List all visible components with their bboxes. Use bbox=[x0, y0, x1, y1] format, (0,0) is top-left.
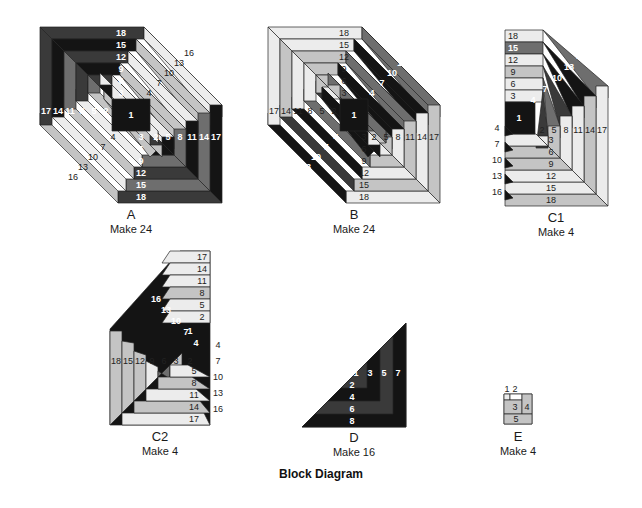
block-c1-diagram: 1818171515141212119986653321471013164710… bbox=[492, 30, 608, 206]
make-count-a: Make 24 bbox=[96, 222, 166, 236]
bottom-strip-label: 14 bbox=[189, 402, 199, 412]
horizontal-strip-label: 4 bbox=[349, 392, 354, 402]
top-strip-label: 6 bbox=[118, 76, 123, 86]
left-strip-label: 8 bbox=[307, 106, 312, 116]
bottom-strip-label: 9 bbox=[548, 159, 553, 169]
lower-diagonal-label: 13 bbox=[301, 162, 311, 172]
center-label: 1 bbox=[516, 113, 521, 123]
left-strip-label: 2 bbox=[331, 106, 336, 116]
upper-diagonal-label: 16 bbox=[184, 48, 194, 58]
right-strip-label: 8 bbox=[177, 132, 182, 142]
left-strip-label: 6 bbox=[161, 356, 166, 366]
right-top-strip-label: 8 bbox=[199, 288, 204, 298]
center-label: 1 bbox=[351, 110, 356, 120]
top-strip-label: 12 bbox=[339, 52, 349, 62]
top-strip-label: 15 bbox=[508, 43, 518, 53]
right-top-strip-label: 17 bbox=[197, 252, 207, 262]
top-strip-label: 3 bbox=[118, 88, 123, 98]
upper-diagonal-label: 13 bbox=[564, 62, 574, 72]
right-strip-label: 5 bbox=[383, 132, 388, 142]
right-strip-label: 2 bbox=[371, 132, 376, 142]
piece-label: 3 bbox=[512, 402, 517, 412]
center-label: 1 bbox=[128, 110, 133, 120]
left-strip-label: 3 bbox=[173, 356, 178, 366]
upper-diagonal-label: 4 bbox=[530, 95, 535, 105]
make-count-b: Make 24 bbox=[319, 222, 389, 236]
left-outside-label: 13 bbox=[492, 171, 502, 181]
bottom-strip-label: 5 bbox=[191, 366, 196, 376]
horizontal-strip-label: 8 bbox=[349, 416, 354, 426]
piece-1 bbox=[504, 394, 510, 400]
block-c2-diagram: 1714118521613107418151296317141185214710… bbox=[110, 251, 223, 425]
top-strip-label: 9 bbox=[341, 64, 346, 74]
right-strip-label: 2 bbox=[539, 125, 544, 135]
bottom-strip-label: 18 bbox=[546, 195, 556, 205]
lower-diagonal-label: 10 bbox=[311, 152, 321, 162]
left-strip bbox=[110, 331, 122, 425]
right-strip-label: 2 bbox=[153, 132, 158, 142]
right-strip bbox=[416, 113, 428, 191]
make-count-e: Make 4 bbox=[483, 444, 553, 458]
left-strip-label: 17 bbox=[269, 106, 279, 116]
top-strip bbox=[280, 39, 366, 51]
right-strip-label: 8 bbox=[563, 125, 568, 135]
right-strip-label: 8 bbox=[395, 132, 400, 142]
piece-label: 5 bbox=[513, 414, 518, 424]
upper-diagonal-label: 4 bbox=[146, 88, 151, 98]
top-strip-label: 9 bbox=[118, 64, 123, 74]
upper-diagonal-label: 16 bbox=[407, 48, 417, 58]
right-strip-label: 5 bbox=[165, 132, 170, 142]
vertical-strip-label: 7 bbox=[395, 368, 400, 378]
caption-e: E Make 4 bbox=[483, 429, 553, 458]
block-letter-d: D bbox=[319, 430, 389, 445]
right-strip-label: 11 bbox=[405, 132, 414, 142]
bottom-strip bbox=[505, 158, 572, 170]
make-count-c2: Make 4 bbox=[125, 444, 195, 458]
bottom-strip-label: 12 bbox=[136, 168, 146, 178]
make-count-c1: Make 4 bbox=[521, 225, 591, 239]
block-letter-e: E bbox=[483, 429, 553, 444]
upper-diagonal-label: 10 bbox=[164, 68, 174, 78]
block-letter-c2: C2 bbox=[125, 429, 195, 444]
bottom-strip-label: 8 bbox=[191, 378, 196, 388]
bottom-strip-label: 6 bbox=[138, 144, 143, 154]
right-outside-label: 16 bbox=[213, 404, 223, 414]
left-strip bbox=[122, 341, 134, 413]
bottom-strip bbox=[505, 194, 608, 206]
block-b-diagram: 1181817171515141412121111998866553322471… bbox=[268, 27, 440, 203]
right-top-strip-label: 14 bbox=[197, 264, 207, 274]
left-strip-label: 2 bbox=[103, 106, 108, 116]
top-strip-label: 9 bbox=[510, 67, 515, 77]
bottom-strip-label: 9 bbox=[138, 156, 143, 166]
bottom-strip-label: 12 bbox=[546, 171, 556, 181]
upper-diagonal-label: 13 bbox=[161, 305, 171, 315]
left-strip-label: 11 bbox=[65, 106, 75, 116]
bottom-strip bbox=[505, 170, 584, 182]
top-strip-label: 6 bbox=[341, 76, 346, 86]
right-top-strip-label: 2 bbox=[199, 312, 204, 322]
lower-diagonal-label: 7 bbox=[100, 142, 105, 152]
bottom-strip-label: 9 bbox=[361, 156, 366, 166]
right-strip bbox=[428, 105, 440, 203]
right-strip-label: 5 bbox=[551, 125, 556, 135]
left-strip-label: 14 bbox=[53, 106, 63, 116]
upper-diagonal-label: 13 bbox=[174, 58, 184, 68]
caption-b: B Make 24 bbox=[319, 207, 389, 236]
block-letter-b: B bbox=[319, 207, 389, 222]
left-strip-label: 14 bbox=[281, 106, 291, 116]
upper-diagonal-label: 7 bbox=[156, 78, 161, 88]
caption-c1: C1 Make 4 bbox=[521, 210, 591, 239]
bottom-strip-label: 3 bbox=[361, 132, 366, 142]
upper-diagonal-label: 16 bbox=[151, 294, 161, 304]
block-letter-c1: C1 bbox=[521, 210, 591, 225]
lower-diagonal-label: 13 bbox=[78, 162, 88, 172]
right-strip bbox=[210, 105, 222, 203]
bottom-strip-label: 17 bbox=[189, 414, 199, 424]
upper-diagonal-label: 4 bbox=[369, 88, 374, 98]
upper-diagonal-label: 13 bbox=[397, 58, 407, 68]
left-strip-label: 8 bbox=[79, 106, 84, 116]
bottom-strip-label: 3 bbox=[138, 132, 143, 142]
block-a-diagram: 1181817171515141412121111998866553322471… bbox=[40, 27, 222, 203]
right-strip-label: 17 bbox=[597, 125, 607, 135]
piece-label: 4 bbox=[524, 402, 529, 412]
